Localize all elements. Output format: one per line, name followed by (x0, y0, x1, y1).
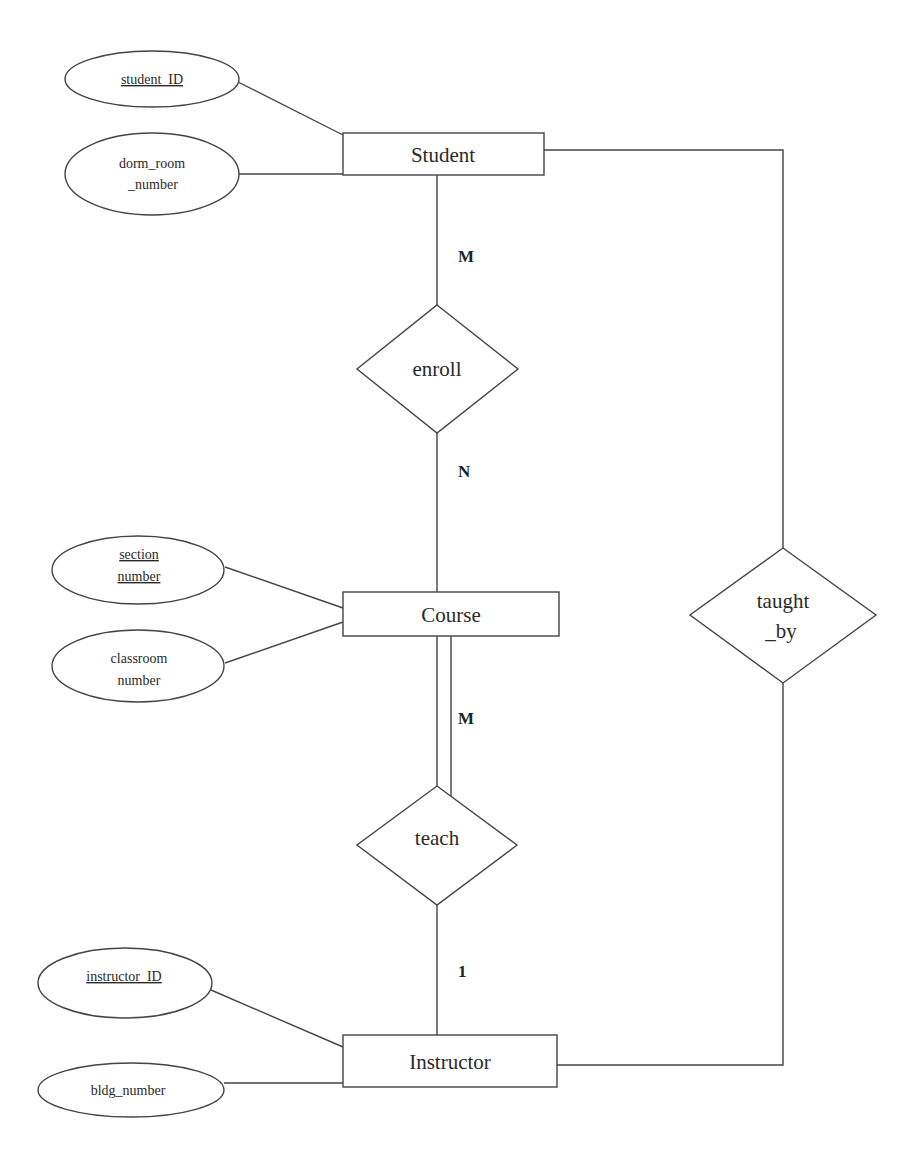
attribute-label: bldg_number (91, 1083, 166, 1098)
attribute-classroom-number[interactable]: classroom number (52, 630, 224, 702)
relationship-taught-by[interactable]: taught _by (690, 548, 876, 683)
taughtby-instructor-connector (557, 683, 783, 1065)
classroom-number-connector (225, 622, 343, 663)
attribute-label-line2: number (118, 569, 161, 584)
relationship-label-line2: _by (764, 619, 797, 643)
cardinality-teach-instructor: 1 (458, 962, 467, 981)
attribute-bldg-number[interactable]: bldg_number (38, 1063, 224, 1117)
attribute-dorm-room-number[interactable]: dorm_room _number (65, 133, 239, 215)
attribute-label: instructor_ID (86, 969, 161, 984)
entity-instructor[interactable]: Instructor (343, 1035, 557, 1087)
section-number-connector (225, 567, 343, 608)
student-id-connector (238, 82, 343, 135)
connectors (211, 82, 783, 1083)
relationship-teach[interactable]: teach (357, 786, 517, 905)
relationship-enroll[interactable]: enroll (357, 305, 518, 433)
attribute-label-line1: section (119, 547, 159, 562)
relationship-label-line1: taught (757, 589, 810, 613)
cardinality-enroll-course: N (458, 462, 471, 481)
attribute-section-number[interactable]: section number (52, 536, 224, 604)
attribute-label: student_ID (121, 72, 183, 87)
relationship-label: teach (415, 826, 460, 850)
attribute-instructor-id[interactable]: instructor_ID (38, 948, 212, 1018)
cardinality-course-teach: M (458, 709, 474, 728)
student-taughtby-connector (544, 150, 783, 548)
attribute-ellipse (65, 133, 239, 215)
instructor-id-connector (211, 990, 343, 1047)
entity-label: Course (421, 603, 481, 627)
attribute-student-id[interactable]: student_ID (65, 51, 239, 107)
attribute-label-line1: classroom (111, 651, 168, 666)
relationship-diamond (690, 548, 876, 683)
relationship-label: enroll (413, 357, 462, 381)
attribute-label-line2: _number (127, 177, 178, 192)
attribute-label-line2: number (118, 673, 161, 688)
entity-course[interactable]: Course (343, 592, 559, 636)
attribute-ellipse (52, 630, 224, 702)
entity-label: Instructor (409, 1050, 491, 1074)
entity-student[interactable]: Student (343, 133, 544, 175)
entity-label: Student (411, 143, 475, 167)
cardinality-student-enroll: M (458, 247, 474, 266)
er-diagram: Student Course Instructor enroll teach t… (0, 0, 923, 1156)
attribute-label-line1: dorm_room (119, 156, 185, 171)
